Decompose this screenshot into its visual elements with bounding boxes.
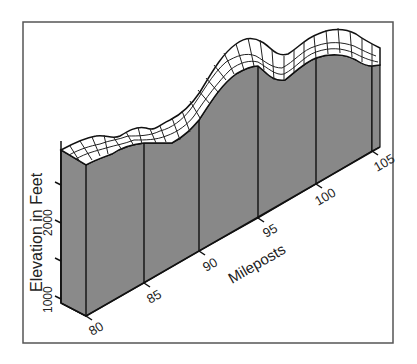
elevation-chart: 80 85 90 95 100 105 Mileposts 1000 2000 … [0,0,417,364]
y-axis-title: Elevation in Feet [28,172,45,292]
elevation-left-face [61,150,86,316]
elevation-right-face [372,65,380,151]
